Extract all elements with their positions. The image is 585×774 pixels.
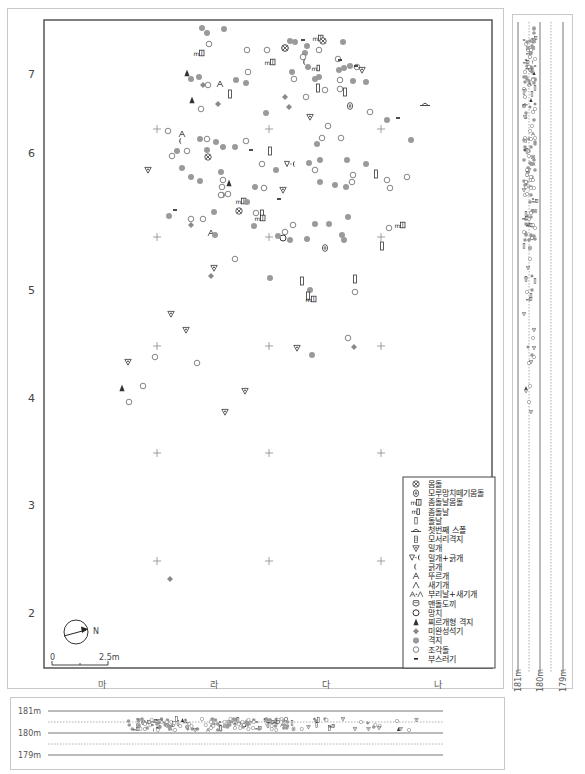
bottom-chunk-icon (237, 722, 240, 725)
side-point-flake-icon (529, 98, 532, 102)
flake-icon (326, 221, 332, 227)
bottom-flake-icon (286, 720, 290, 724)
bottom-flake-icon (137, 724, 141, 728)
bottom-chunk-icon (233, 726, 236, 729)
side-chunk-icon (525, 192, 528, 195)
flake-icon (244, 199, 250, 205)
side-flake-icon (524, 75, 528, 79)
microblade-core-icon (411, 499, 422, 506)
x-axis-label: 라 (210, 680, 219, 690)
flake-icon (314, 141, 320, 147)
side-chunk-icon (525, 290, 528, 293)
side-chunk-icon (523, 70, 526, 73)
side-chunk-icon (531, 110, 534, 113)
side-chunk-icon (529, 48, 532, 51)
flake-icon (204, 30, 210, 36)
flake-icon (306, 160, 312, 166)
side-debris-icon (524, 150, 526, 151)
chunk-icon (352, 289, 358, 295)
legend-item-label: 찌르개형 격지 (428, 617, 473, 627)
blade-icon (269, 147, 272, 155)
side-unfinished-icon (530, 274, 534, 278)
flake-icon (273, 167, 279, 173)
flake-icon (289, 69, 295, 75)
chunk-icon (264, 47, 270, 53)
bottom-chunk-icon (156, 728, 159, 731)
unfinished-icon (282, 94, 288, 100)
blade-icon (415, 518, 417, 524)
flake-icon (211, 209, 217, 215)
y-axis-label: 4 (28, 392, 35, 405)
flake-icon (232, 144, 238, 150)
chunk-icon (219, 184, 225, 190)
chunk-icon (413, 647, 419, 653)
grid-cross-icon (377, 557, 385, 565)
microblade-core-icon (306, 296, 317, 303)
chunk-icon (291, 76, 297, 82)
side-chunk-icon (529, 186, 532, 189)
bottom-endscraper-icon (341, 717, 345, 720)
side-chunk-icon (525, 173, 528, 176)
side-flake-icon (530, 353, 534, 357)
flake-icon (252, 184, 258, 190)
side-flake-icon (529, 145, 533, 149)
bottom-chunk-icon (204, 723, 207, 726)
chunk-icon (206, 41, 212, 47)
side-flake-icon (522, 158, 526, 162)
side-chunk-icon (531, 178, 534, 181)
corner-flake-icon (415, 536, 418, 542)
debris-icon (277, 198, 281, 200)
side-chunk-icon (528, 384, 531, 387)
chunk-icon (205, 82, 211, 88)
bottom-chunk-icon (241, 720, 244, 723)
blade-icon (354, 275, 357, 283)
flake-icon (251, 223, 257, 229)
anvil-core-icon (322, 245, 327, 252)
side-flake-icon (522, 138, 526, 142)
y-axis-labels: 765432 (28, 68, 35, 620)
flake-icon (212, 232, 218, 238)
bottom-debris-icon (256, 722, 258, 723)
blade-icon (344, 88, 347, 96)
chunk-icon (404, 174, 410, 180)
flake-icon (197, 136, 203, 142)
legend-item-label: 몸돌 (428, 480, 442, 489)
flake-icon (179, 165, 185, 171)
chunk-icon (303, 94, 309, 100)
legend-item-label: 긁개 (428, 562, 442, 572)
side-chunk-icon (531, 336, 534, 339)
side-flake-icon (524, 111, 528, 115)
bottom-chunk-icon (229, 717, 232, 720)
bottom-endscraper-icon (367, 727, 371, 730)
grid-cross-icon (153, 557, 161, 565)
unfinished-icon (188, 222, 194, 228)
side-debris-icon (523, 40, 525, 41)
side-flake-icon (524, 233, 528, 237)
flake-icon (166, 213, 172, 219)
bottom-blade-icon (291, 721, 293, 726)
north-arrow-icon: N (64, 620, 99, 644)
chunk-icon (290, 222, 296, 228)
grid-cross-icon (377, 125, 385, 133)
side-anvil-core-icon (522, 104, 525, 108)
side-microblade-core-icon (526, 223, 532, 227)
chunk-icon (319, 135, 325, 141)
flake-icon (287, 38, 293, 44)
flake-icon (304, 236, 310, 242)
side-microblade-core-icon (523, 60, 529, 64)
bottom-blade-icon (316, 723, 318, 728)
chunk-icon (204, 136, 210, 142)
flake-icon (292, 39, 298, 45)
side-flake-icon (529, 215, 533, 219)
artifact-symbols (119, 25, 430, 582)
side-microblade-core-icon (522, 216, 528, 220)
chunk-icon (349, 179, 355, 185)
side-endscraper-icon (522, 188, 526, 191)
core-icon (282, 45, 288, 51)
bottom-chunk-icon (247, 727, 250, 730)
bottom-label-179: 179m (18, 751, 41, 760)
chunk-icon (384, 177, 390, 183)
bottom-flake-icon (140, 717, 144, 721)
bottom-chunk-icon (223, 720, 226, 723)
chunk-icon (337, 86, 343, 92)
